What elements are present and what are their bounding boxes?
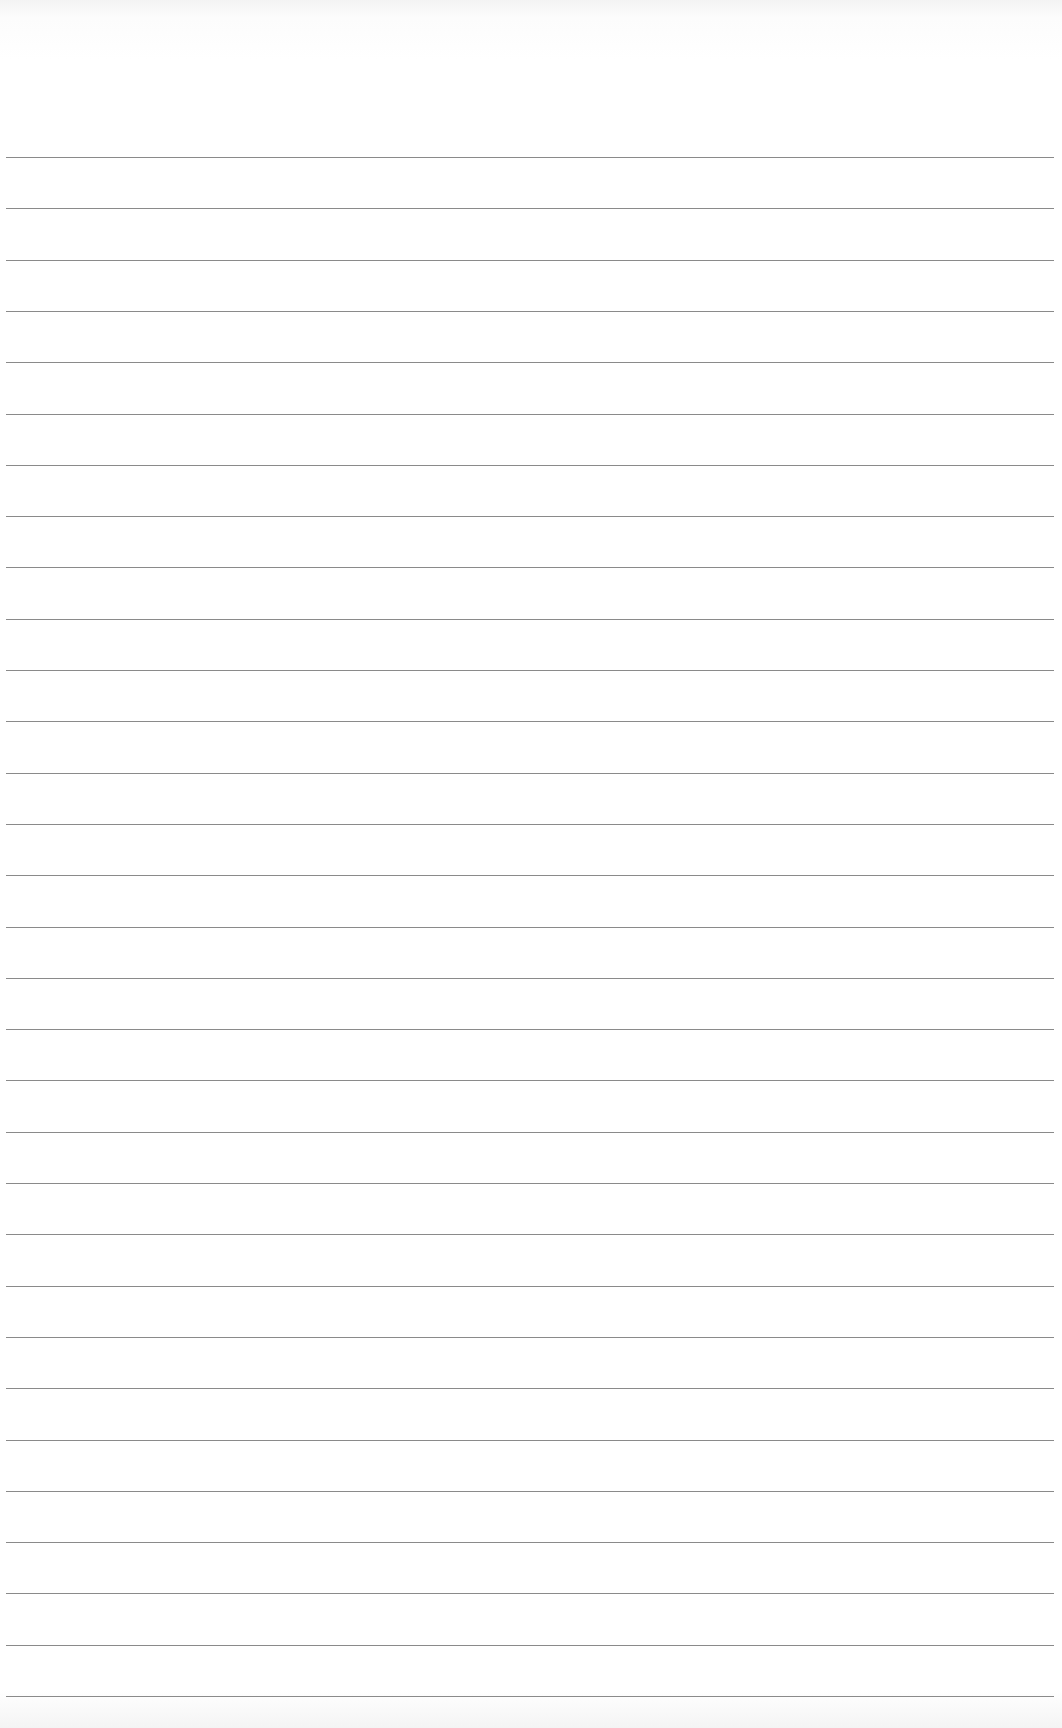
- ruled-line: [6, 1234, 1054, 1235]
- ruled-line: [6, 311, 1054, 312]
- ruled-line: [6, 1337, 1054, 1338]
- ruled-line: [6, 875, 1054, 876]
- ruled-line: [6, 824, 1054, 825]
- lined-paper: [0, 0, 1062, 1728]
- ruled-line: [6, 773, 1054, 774]
- ruled-line: [6, 1388, 1054, 1389]
- ruled-line: [6, 465, 1054, 466]
- ruled-line: [6, 670, 1054, 671]
- ruled-line: [6, 1696, 1054, 1697]
- ruled-line: [6, 1286, 1054, 1287]
- ruled-line: [6, 1491, 1054, 1492]
- ruled-line: [6, 157, 1054, 158]
- ruled-line: [6, 1029, 1054, 1030]
- ruled-line: [6, 1132, 1054, 1133]
- ruled-line: [6, 1080, 1054, 1081]
- ruled-line: [6, 1593, 1054, 1594]
- ruled-line: [6, 260, 1054, 261]
- ruled-line: [6, 362, 1054, 363]
- ruled-line: [6, 567, 1054, 568]
- ruled-line: [6, 414, 1054, 415]
- ruled-line: [6, 978, 1054, 979]
- ruled-line: [6, 619, 1054, 620]
- ruled-line: [6, 1645, 1054, 1646]
- ruled-line: [6, 1440, 1054, 1441]
- ruled-line: [6, 927, 1054, 928]
- ruled-line: [6, 208, 1054, 209]
- ruled-line: [6, 1183, 1054, 1184]
- ruled-line: [6, 1542, 1054, 1543]
- ruled-line: [6, 721, 1054, 722]
- ruled-line: [6, 516, 1054, 517]
